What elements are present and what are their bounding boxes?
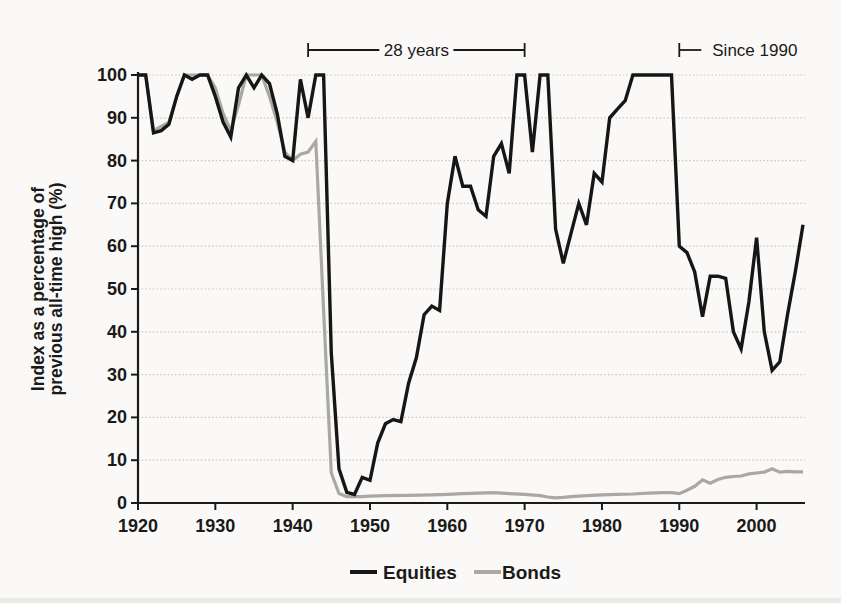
x-tick-label: 2000 [737, 516, 777, 536]
chart-canvas: 0102030405060708090100192019301940195019… [0, 0, 841, 603]
bracket-28-years-label: 28 years [384, 41, 449, 60]
equities-line [138, 75, 803, 494]
y-tick-label: 90 [107, 108, 127, 128]
x-tick-label: 1920 [118, 516, 158, 536]
x-tick-label: 1960 [427, 516, 467, 536]
legend-label-equities: Equities [383, 562, 457, 583]
y-axis-title-line: Index as a percentage of [28, 187, 48, 391]
x-tick-label: 1950 [350, 516, 390, 536]
y-tick-label: 30 [107, 365, 127, 385]
y-tick-label: 70 [107, 193, 127, 213]
y-tick-label: 50 [107, 279, 127, 299]
y-tick-label: 80 [107, 151, 127, 171]
y-tick-label: 0 [117, 493, 127, 513]
drawdown-chart-figure: 0102030405060708090100192019301940195019… [0, 0, 841, 603]
y-tick-label: 10 [107, 450, 127, 470]
legend-label-bonds: Bonds [502, 562, 561, 583]
x-tick-label: 1970 [505, 516, 545, 536]
bracket-since-1990-label: Since 1990 [712, 41, 797, 60]
y-tick-label: 60 [107, 236, 127, 256]
page-edge-strip [0, 598, 841, 603]
y-tick-label: 100 [97, 65, 127, 85]
x-tick-label: 1930 [195, 516, 235, 536]
x-tick-label: 1990 [659, 516, 699, 536]
y-tick-label: 40 [107, 322, 127, 342]
y-axis-title-line: previous all-time high (%) [46, 183, 66, 396]
x-tick-label: 1980 [582, 516, 622, 536]
y-tick-label: 20 [107, 407, 127, 427]
x-tick-label: 1940 [273, 516, 313, 536]
bonds-line [138, 75, 803, 498]
